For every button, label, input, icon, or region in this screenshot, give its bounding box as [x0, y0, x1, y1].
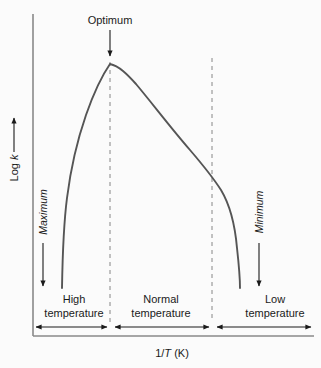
zone-label-normal-temperature: Normal temperature	[131, 293, 190, 320]
y-axis-label-text: Log	[8, 160, 20, 181]
zone-label-high-line2: temperature	[44, 307, 103, 321]
y-axis-label-italic: k	[8, 155, 20, 161]
x-axis-label-suffix: (K)	[171, 347, 189, 359]
maximum-label: Maximum	[37, 189, 50, 235]
axis-lines	[33, 14, 314, 336]
zone-label-high-line1: High	[44, 293, 103, 307]
x-axis-label: 1/T (K)	[155, 347, 189, 360]
zone-label-high-temperature: High temperature	[44, 293, 103, 320]
zone-label-low-line1: Low	[245, 293, 304, 307]
temperature-rate-diagram: Optimum Log k 1/T (K) Maximum Minimum Hi…	[0, 0, 321, 368]
y-axis-label: Log k	[8, 155, 21, 182]
rate-curve	[62, 64, 240, 288]
optimum-label: Optimum	[88, 14, 133, 27]
zone-label-low-line2: temperature	[245, 307, 304, 321]
zone-label-low-temperature: Low temperature	[245, 293, 304, 320]
zone-label-normal-line2: temperature	[131, 307, 190, 321]
minimum-label: Minimum	[253, 191, 266, 234]
x-axis-label-prefix: 1/	[155, 347, 164, 359]
zone-label-normal-line1: Normal	[131, 293, 190, 307]
x-axis-label-italic: T	[164, 347, 171, 359]
